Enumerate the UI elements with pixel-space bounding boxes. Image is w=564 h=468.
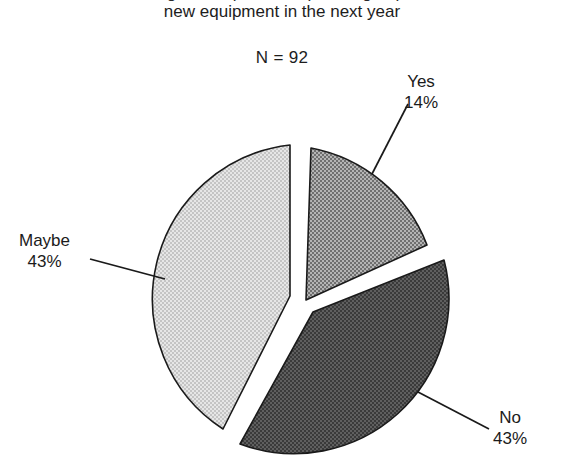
leader-line-maybe (90, 259, 165, 279)
slice-label-maybe: Maybe 43% (19, 231, 70, 272)
pie-slice-maybe[interactable] (152, 145, 290, 429)
slice-label-no: No 43% (493, 408, 527, 449)
slice-label-yes-value: 14% (404, 93, 438, 114)
slice-label-no-value: 43% (493, 429, 527, 450)
leader-line-yes (372, 104, 408, 174)
slice-label-yes: Yes 14% (404, 72, 438, 113)
leader-line-no (418, 392, 489, 429)
slice-label-no-name: No (493, 408, 527, 429)
slice-label-yes-name: Yes (404, 72, 438, 93)
slice-label-maybe-name: Maybe (19, 231, 70, 252)
pie-chart-graphic (0, 0, 564, 468)
slice-label-maybe-value: 43% (19, 252, 70, 273)
pie-chart-figure: Percentage of respondents planning to pu… (0, 0, 564, 468)
